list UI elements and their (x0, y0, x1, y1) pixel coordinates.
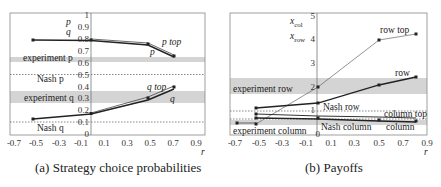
svg-text:-0.1: -0.1 (74, 138, 88, 148)
label-experiment-row: experiment row (233, 84, 293, 94)
svg-text:1: 1 (85, 10, 90, 20)
svg-text:0: 0 (316, 129, 321, 139)
x-axis-label: r (424, 147, 428, 157)
svg-text:-0.5: -0.5 (29, 138, 44, 148)
svg-text:0.4: 0.4 (78, 82, 90, 92)
svg-text:0.7: 0.7 (397, 138, 409, 148)
svg-text:-0.3: -0.3 (52, 138, 67, 148)
chart-strategy-probabilities: 1 0.9 0.8 0.7 0.6 0.5 0.4 0.3 0.2 0.1 0 … (7, 10, 205, 157)
svg-text:0.5: 0.5 (373, 138, 385, 148)
svg-text:0.7: 0.7 (78, 46, 90, 56)
y-axis-label-q: q (66, 27, 71, 37)
svg-text:3: 3 (311, 58, 316, 68)
label-row-top: row top (380, 25, 410, 35)
svg-text:0.8: 0.8 (78, 34, 90, 44)
svg-text:0.3: 0.3 (78, 93, 90, 103)
svg-text:-0.7: -0.7 (228, 138, 243, 148)
svg-text:-0.7: -0.7 (7, 138, 22, 148)
svg-text:0.5: 0.5 (144, 138, 156, 148)
svg-text:5: 5 (311, 11, 316, 21)
svg-text:0.1: 0.1 (98, 138, 109, 148)
svg-text:xrow: xrow (289, 31, 306, 44)
label-column-top: column top (384, 109, 427, 119)
label-column: column (386, 122, 415, 132)
svg-text:0.7: 0.7 (167, 138, 179, 148)
label-experiment-p: experiment p (23, 53, 73, 63)
label-experiment-q: experiment q (24, 93, 74, 103)
x-tick-labels: -0.7 -0.5 -0.3 -0.1 0.1 0.3 0.5 0.7 0.9 (228, 138, 433, 148)
label-experiment-column: experiment column (233, 126, 307, 136)
label-p: p (149, 47, 155, 57)
svg-text:xcol: xcol (289, 16, 303, 29)
label-p-top: p top (161, 37, 182, 47)
label-nash-p: Nash p (37, 74, 64, 84)
svg-text:0.3: 0.3 (348, 138, 360, 148)
svg-text:4: 4 (311, 34, 316, 44)
caption-left: (a) Strategy choice probabilities (35, 160, 201, 176)
svg-text:0.2: 0.2 (78, 105, 89, 115)
label-nash-column: Nash column (321, 122, 372, 132)
svg-text:-0.3: -0.3 (275, 138, 290, 148)
svg-text:0.3: 0.3 (121, 138, 133, 148)
svg-text:0.1: 0.1 (325, 138, 336, 148)
y-tick-labels: 5 4 3 2 1 0 (311, 11, 321, 139)
chart-payoffs: 5 4 3 2 1 0 -0.7 -0.5 -0.3 -0.1 0.1 0.3 … (228, 11, 433, 157)
y-tick-labels: 1 0.9 0.8 0.7 0.6 0.5 0.4 0.3 0.2 0.1 0 (78, 10, 90, 139)
y-axis-label-p: p (65, 17, 71, 27)
label-nash-row: Nash row (323, 102, 360, 112)
svg-text:-0.5: -0.5 (252, 138, 267, 148)
svg-text:0.6: 0.6 (78, 58, 90, 68)
svg-text:-0.1: -0.1 (299, 138, 313, 148)
x-axis-label: r (201, 147, 205, 157)
svg-text:0.1: 0.1 (78, 117, 89, 127)
label-row: row (395, 68, 410, 78)
label-nash-q: Nash q (37, 123, 64, 133)
label-q: q (170, 94, 175, 104)
figure: 1 0.9 0.8 0.7 0.6 0.5 0.4 0.3 0.2 0.1 0 … (0, 0, 441, 187)
label-q-top: q top (147, 82, 167, 92)
svg-text:0.5: 0.5 (78, 70, 90, 80)
svg-text:1: 1 (311, 105, 316, 115)
x-tick-labels: -0.7 -0.5 -0.3 -0.1 0.1 0.3 0.5 0.7 0.9 (7, 138, 202, 148)
svg-text:0.9: 0.9 (78, 22, 90, 32)
caption-right: (b) Payoffs (305, 160, 363, 176)
y-axis-label: xcol xrow (289, 16, 306, 44)
